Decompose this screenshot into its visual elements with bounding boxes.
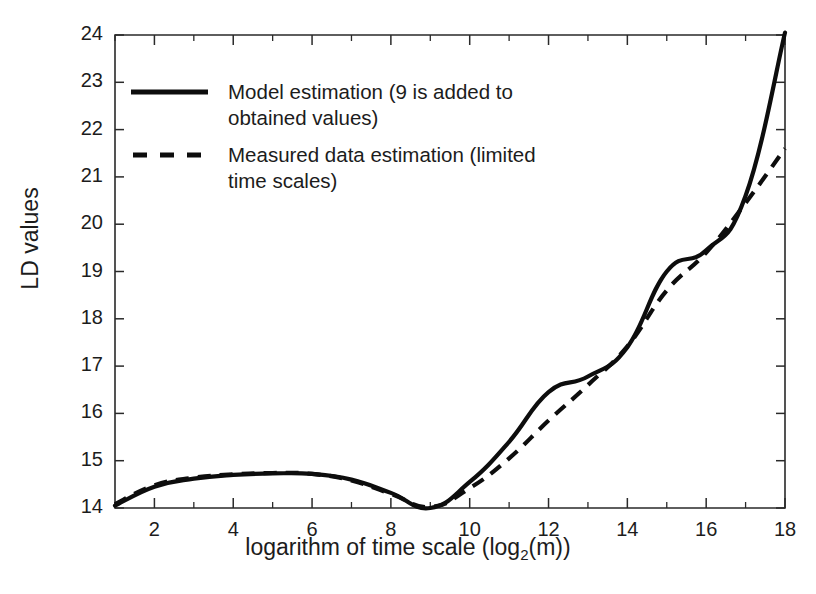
y-tick-label: 14 <box>49 495 103 518</box>
x-axis-title-main: logarithm of time scale (log <box>245 534 520 560</box>
x-axis-title: logarithm of time scale (log2(m)) <box>0 534 816 563</box>
y-tick-label: 23 <box>49 69 103 92</box>
y-tick-label: 15 <box>49 448 103 471</box>
chart-figure: 1415161718192021222324 24681012141618 Mo… <box>0 0 816 594</box>
y-tick-label: 16 <box>49 400 103 423</box>
x-axis-title-tail: (m)) <box>529 534 571 560</box>
y-axis-title: LD values <box>17 149 44 329</box>
legend-entry-label-measured-data: Measured data estimation (limited time s… <box>228 142 558 194</box>
y-tick-label: 19 <box>49 259 103 282</box>
x-axis-title-subscript: 2 <box>520 546 528 563</box>
legend-entry-label-model-estimation: Model estimation (9 is added to obtained… <box>228 79 548 131</box>
series-line-measured-data-estimation <box>115 149 785 508</box>
y-tick-label: 22 <box>49 117 103 140</box>
y-tick-label: 17 <box>49 353 103 376</box>
y-tick-label: 21 <box>49 164 103 187</box>
y-tick-label: 24 <box>49 22 103 45</box>
y-tick-label: 20 <box>49 211 103 234</box>
y-tick-label: 18 <box>49 306 103 329</box>
